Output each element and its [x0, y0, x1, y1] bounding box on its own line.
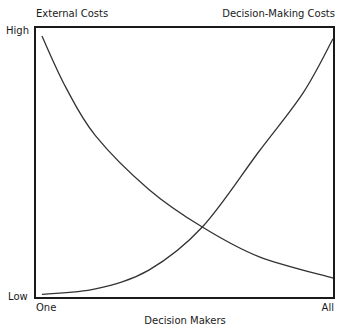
chart-canvas — [0, 0, 347, 332]
plot-frame — [35, 27, 334, 298]
decision-making-costs-curve — [42, 39, 333, 295]
